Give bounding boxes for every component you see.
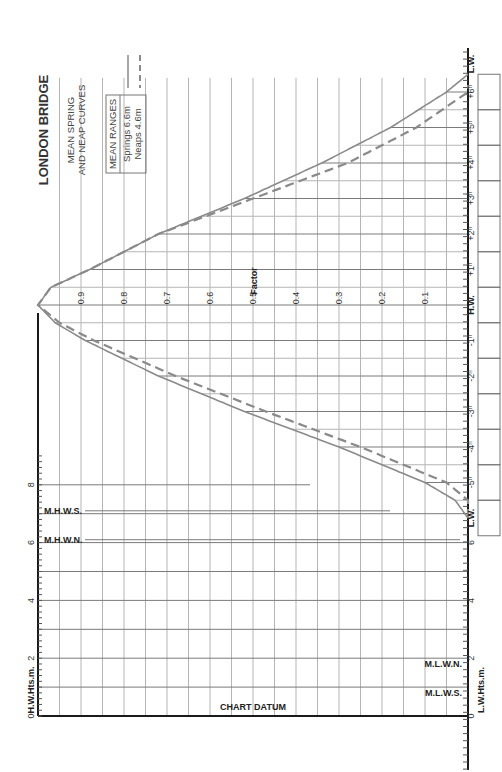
mlwn-label: M.L.W.N. bbox=[425, 659, 463, 669]
time-tick-label: +1ʰ bbox=[466, 262, 476, 276]
time-tick-label: +6ʰ bbox=[466, 85, 476, 99]
chart-title: LONDON BRIDGE bbox=[36, 74, 51, 185]
hw-height-tick-label: 4 bbox=[26, 598, 36, 603]
chart-subtitle-line1: MEAN SPRING bbox=[65, 97, 76, 164]
lw-height-tick-label: 0 bbox=[466, 713, 476, 718]
factor-tick-label: 0.3 bbox=[334, 292, 344, 305]
chart-labels: LONDON BRIDGEMEAN SPRINGAND NEAP CURVESM… bbox=[26, 55, 486, 719]
time-entry-box bbox=[478, 394, 500, 430]
legend-heading: MEAN RANGES bbox=[107, 99, 118, 169]
time-tick-label: -2ʰ bbox=[466, 370, 476, 382]
factor-tick-label: 0.9 bbox=[76, 292, 86, 305]
lw-height-tick-label: 2 bbox=[466, 656, 476, 661]
time-entry-box bbox=[478, 465, 500, 501]
factor-tick-label: 0.2 bbox=[377, 292, 387, 305]
hw-height-tick-label: 8 bbox=[26, 482, 36, 487]
mhws-label: M.H.W.S. bbox=[44, 506, 82, 516]
time-tick-label: H.W. bbox=[466, 295, 476, 315]
tidal-curve-chart: LONDON BRIDGEMEAN SPRINGAND NEAP CURVESM… bbox=[0, 0, 502, 772]
time-tick-label: -5ʰ bbox=[466, 476, 476, 488]
time-entry-box bbox=[478, 110, 500, 146]
lw-height-tick-label: 6 bbox=[466, 540, 476, 545]
factor-tick-label: 0.4 bbox=[291, 292, 301, 305]
time-entry-box bbox=[478, 358, 500, 394]
time-entry-box bbox=[478, 216, 500, 252]
factor-tick-label: 0.8 bbox=[119, 292, 129, 305]
legend-springs: Springs 6.6m bbox=[121, 106, 132, 162]
chart-subtitle-line2: AND NEAP CURVES bbox=[76, 85, 87, 175]
hw-height-tick-label: 2 bbox=[26, 656, 36, 661]
time-tick-label: +3ʰ bbox=[466, 191, 476, 205]
factor-tick-label: 0.6 bbox=[205, 292, 215, 305]
legend-neaps: Neaps 4.6m bbox=[132, 108, 143, 159]
time-entry-box bbox=[478, 323, 500, 359]
time-entry-box bbox=[478, 74, 500, 110]
hw-height-axis-label: H.W.Hts.m. bbox=[26, 666, 36, 713]
time-tick-label: -4ʰ bbox=[466, 441, 476, 453]
time-entry-box bbox=[478, 181, 500, 217]
time-tick-label: +4ʰ bbox=[466, 156, 476, 170]
time-entry-box bbox=[478, 429, 500, 465]
mlws-label: M.L.W.S. bbox=[425, 688, 462, 698]
lw-height-tick-label: 4 bbox=[466, 598, 476, 603]
time-tick-label: L.W. bbox=[466, 509, 476, 528]
time-tick-label: +5ʰ bbox=[466, 120, 476, 134]
time-tick-label: -1ʰ bbox=[466, 334, 476, 346]
time-entry-box bbox=[478, 287, 500, 323]
time-entry-box bbox=[478, 500, 500, 536]
factor-axis-label: Factor bbox=[249, 267, 259, 295]
time-entry-box bbox=[478, 145, 500, 181]
factor-tick-label: 0.1 bbox=[420, 292, 430, 305]
factor-tick-label: 0.7 bbox=[162, 292, 172, 305]
chart-datum-label: CHART DATUM bbox=[220, 702, 286, 712]
lw-height-axis-label: L.W.Hts.m. bbox=[476, 667, 486, 713]
hw-height-tick-label: 6 bbox=[26, 540, 36, 545]
time-entry-box bbox=[478, 252, 500, 288]
time-tick-label: -3ʰ bbox=[466, 405, 476, 417]
time-tick-label: +2ʰ bbox=[466, 227, 476, 241]
mhwn-label: M.H.W.N. bbox=[44, 535, 83, 545]
time-tick-label: L.W. bbox=[466, 55, 476, 74]
